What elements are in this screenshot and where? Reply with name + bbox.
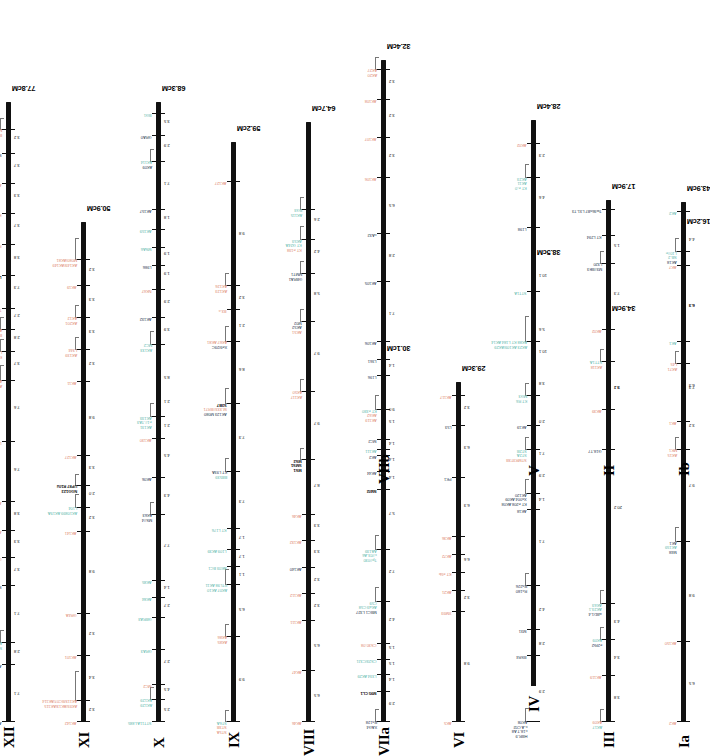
locus-tick[interactable]: [152, 265, 165, 266]
marker-label[interactable]: AK127: [65, 455, 77, 460]
marker-label[interactable]: M95 CL1: [361, 691, 377, 696]
locus-tick[interactable]: [677, 211, 690, 212]
marker-label[interactable]: AK06: [142, 477, 152, 482]
locus-tick[interactable]: [527, 509, 540, 510]
marker-label[interactable]: AK201AK12: [65, 317, 77, 326]
marker-label[interactable]: AK21: [442, 590, 452, 595]
locus-tick[interactable]: [2, 530, 15, 531]
locus-tick[interactable]: [152, 317, 165, 318]
locus-tick[interactable]: [302, 593, 315, 594]
locus-tick[interactable]: [377, 449, 390, 450]
marker-label[interactable]: AK119: [591, 675, 603, 680]
marker-label[interactable]: CS30-08: [362, 643, 377, 648]
marker-label[interactable]: AK5: [445, 721, 452, 726]
locus-tick[interactable]: [677, 449, 690, 450]
locus-tick[interactable]: [152, 113, 165, 114]
locus-tick[interactable]: [77, 349, 90, 350]
locus-tick[interactable]: [227, 549, 240, 550]
locus-tick[interactable]: [302, 321, 315, 322]
locus-tick[interactable]: [527, 227, 540, 228]
locus-tick[interactable]: [377, 674, 390, 675]
locus-tick[interactable]: [227, 471, 240, 472]
locus-tick[interactable]: [302, 540, 315, 541]
marker-label[interactable]: AK93/AK13/AK115AK113/BC07/AK114: [42, 700, 77, 709]
locus-tick[interactable]: [227, 584, 240, 585]
marker-label[interactable]: AK2: [670, 721, 677, 726]
locus-tick[interactable]: [527, 655, 540, 656]
locus-tick[interactable]: [2, 585, 15, 586]
locus-tick[interactable]: [152, 289, 165, 290]
locus-tick[interactable]: [527, 449, 540, 450]
locus-tick[interactable]: [302, 239, 315, 240]
marker-label[interactable]: AK18SB-2L10#e: [666, 251, 677, 265]
locus-tick[interactable]: [452, 590, 465, 591]
marker-label[interactable]: AK111: [291, 620, 302, 625]
marker-label[interactable]: M3#BE3L320: [587, 263, 602, 272]
marker-label[interactable]: AK85AK86: [217, 636, 227, 645]
locus-tick[interactable]: [227, 309, 240, 310]
marker-label[interactable]: AK46: [292, 721, 302, 726]
locus-tick[interactable]: [2, 721, 15, 722]
locus-tick[interactable]: [2, 557, 15, 558]
locus-tick[interactable]: [152, 229, 165, 230]
marker-label[interactable]: KT L176: [212, 528, 227, 533]
locus-tick[interactable]: [527, 721, 540, 722]
marker-label[interactable]: M402: [367, 489, 377, 494]
marker-label[interactable]: AK131e1#-TA3AK133: [137, 416, 152, 430]
locus-tick[interactable]: [602, 721, 615, 722]
marker-label[interactable]: Rc180Rs226: [516, 585, 527, 594]
marker-label[interactable]: AK7: [670, 265, 677, 270]
marker-label[interactable]: GBRA1MMT1: [289, 273, 302, 282]
marker-label[interactable]: L109 AK39: [208, 549, 227, 554]
marker-label[interactable]: e2Rt2AK09: [592, 639, 602, 648]
marker-label[interactable]: aBD1-4AK23-1AK63: [589, 603, 602, 617]
marker-label[interactable]: AK139L344: [65, 349, 77, 358]
marker-label[interactable]: AK129AK129: [140, 699, 152, 708]
locus-tick[interactable]: [227, 636, 240, 637]
marker-label[interactable]: AK02: [592, 329, 602, 334]
locus-tick[interactable]: [377, 375, 390, 376]
marker-label[interactable]: AK119AK62KT e330: [362, 409, 377, 423]
locus-tick[interactable]: [602, 235, 615, 236]
locus-tick[interactable]: [377, 549, 390, 550]
locus-tick[interactable]: [77, 655, 90, 656]
locus-tick[interactable]: [2, 129, 15, 130]
locus-tick[interactable]: [152, 684, 165, 685]
marker-label[interactable]: STT1A: [515, 291, 527, 296]
marker-label[interactable]: G18-T7: [589, 449, 602, 454]
locus-tick[interactable]: [152, 416, 165, 417]
locus-tick[interactable]: [377, 643, 390, 644]
locus-tick[interactable]: [377, 691, 390, 692]
marker-label[interactable]: M48AK159AK1: [665, 541, 677, 555]
marker-label[interactable]: Tp#030c#03-A6AA139: [362, 549, 377, 563]
locus-tick[interactable]: [452, 572, 465, 573]
marker-label[interactable]: NGG123UP87 R10#: [57, 485, 77, 494]
marker-label[interactable]: AK72: [442, 554, 452, 559]
marker-label[interactable]: GBRA3: [139, 617, 152, 622]
locus-tick[interactable]: [527, 177, 540, 178]
locus-tick[interactable]: [377, 137, 390, 138]
locus-tick[interactable]: [2, 244, 15, 245]
marker-label[interactable]: L334 AK29: [358, 674, 377, 679]
locus-tick[interactable]: [2, 501, 15, 502]
locus-tick[interactable]: [152, 477, 165, 478]
marker-label[interactable]: AK108: [365, 99, 377, 104]
marker-label[interactable]: AK117AK50: [291, 391, 303, 400]
locus-tick[interactable]: [152, 514, 165, 515]
locus-tick[interactable]: [677, 363, 690, 364]
locus-tick[interactable]: [77, 507, 90, 508]
locus-tick[interactable]: [377, 489, 390, 490]
marker-label[interactable]: ST5AST3BST6A: [217, 721, 227, 735]
locus-tick[interactable]: [227, 528, 240, 529]
locus-tick[interactable]: [677, 641, 690, 642]
marker-label[interactable]: KT e-0AK11AK23: [515, 177, 527, 191]
locus-tick[interactable]: [452, 721, 465, 722]
marker-label[interactable]: AK1: [670, 421, 677, 426]
locus-tick[interactable]: [377, 721, 390, 722]
marker-label[interactable]: MC2: [369, 439, 377, 444]
locus-tick[interactable]: [302, 459, 315, 460]
locus-tick[interactable]: [2, 275, 15, 276]
locus-tick[interactable]: [77, 259, 90, 260]
marker-label[interactable]: AK118STT1A: [590, 361, 602, 370]
locus-tick[interactable]: [302, 670, 315, 671]
